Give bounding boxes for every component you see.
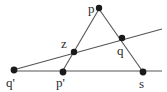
line-p-to-p-prime — [62, 9, 99, 72]
point-q — [119, 35, 125, 41]
label-point-s: s — [139, 77, 144, 90]
label-point-z: z — [61, 37, 67, 50]
geometry-figure: p z q q' p' s — [0, 0, 167, 92]
point-p — [96, 5, 102, 11]
line-transversal — [13, 29, 162, 70]
label-point-p-prime: p' — [56, 76, 65, 89]
point-s — [140, 69, 147, 76]
label-point-q: q — [117, 44, 124, 57]
point-z — [71, 49, 77, 55]
point-q-prime — [11, 67, 18, 74]
label-point-p: p — [88, 2, 95, 15]
label-point-q-prime: q' — [6, 76, 15, 89]
